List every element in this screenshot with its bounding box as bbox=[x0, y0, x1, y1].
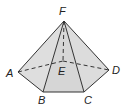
vertex-label-d: D bbox=[112, 64, 120, 76]
vertex-label-c: C bbox=[84, 94, 92, 106]
pyramid-diagram: F A E D B C bbox=[0, 0, 127, 108]
vertex-label-a: A bbox=[5, 67, 13, 79]
vertex-label-f: F bbox=[59, 5, 67, 17]
vertex-label-e: E bbox=[58, 65, 66, 77]
vertex-label-b: B bbox=[38, 94, 45, 106]
